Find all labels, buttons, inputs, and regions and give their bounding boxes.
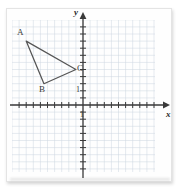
- y-unit-label: 1: [76, 86, 80, 94]
- vertex-label-a: A: [17, 28, 24, 37]
- x-unit-label: 1: [80, 111, 84, 119]
- vertex-label-c: C: [77, 64, 83, 73]
- vertex-label-b: B: [39, 85, 45, 94]
- graph-canvas: [0, 0, 180, 192]
- coordinate-plane-figure: y x 1 1 A B C: [0, 0, 180, 192]
- y-axis-label: y: [74, 8, 78, 17]
- y-axis: [80, 12, 87, 178]
- x-axis-label: x: [166, 110, 171, 119]
